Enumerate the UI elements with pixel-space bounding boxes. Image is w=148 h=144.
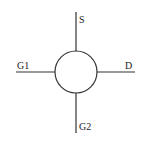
- source-label: S: [79, 14, 85, 25]
- drain-label: D: [125, 60, 132, 71]
- gate2-label: G2: [79, 121, 91, 132]
- transistor-body: [55, 51, 97, 93]
- gate1-label: G1: [17, 60, 29, 71]
- transistor-diagram: S G1 D G2: [0, 0, 148, 144]
